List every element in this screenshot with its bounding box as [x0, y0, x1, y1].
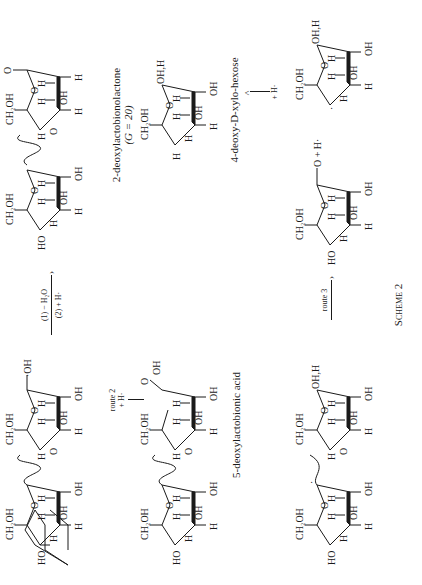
svg-text:O: O	[48, 448, 59, 455]
svg-text:O: O	[338, 448, 349, 455]
svg-text:H: H	[363, 83, 374, 90]
caption-lactone: 2-deoxylactobionolactone (G = 20)	[110, 45, 134, 205]
svg-text:O: O	[48, 128, 59, 135]
svg-text:H: H	[208, 123, 219, 130]
svg-text:OH: OH	[58, 506, 69, 520]
svg-text:H: H	[171, 513, 182, 520]
svg-text:OH: OH	[208, 82, 219, 96]
svg-text:H: H	[208, 523, 219, 530]
svg-text:CH₂OH: CH₂OH	[4, 93, 15, 125]
plus-h-radical: O + H·	[312, 139, 323, 167]
svg-text:H: H	[338, 95, 349, 102]
svg-text:H: H	[363, 428, 374, 435]
svg-text:H: H	[326, 195, 337, 202]
svg-text:H: H	[326, 513, 337, 520]
caption-acid: 5-deoxylactobionic acid	[230, 345, 242, 505]
svg-text:H: H	[73, 74, 84, 81]
svg-text:H: H	[326, 400, 337, 407]
svg-text:H: H	[73, 523, 84, 530]
svg-text:HO: HO	[36, 551, 47, 565]
route3-arrow: route 3 ›	[320, 280, 332, 320]
svg-text:H: H	[36, 453, 47, 460]
svg-text:H: H	[73, 208, 84, 215]
svg-text:H: H	[171, 418, 182, 425]
svg-text:OH: OH	[151, 361, 162, 375]
svg-text:CH₂OH: CH₂OH	[294, 508, 305, 540]
route2-sub-label: + H·	[117, 380, 126, 420]
caption-hexose: 4-deoxy-D-xylo-hexose	[228, 35, 240, 185]
svg-text:H: H	[171, 95, 182, 102]
svg-text:OH: OH	[363, 182, 374, 196]
svg-text:H: H	[363, 223, 374, 230]
svg-text:H: H	[326, 55, 337, 62]
svg-text:CH₂OH: CH₂OH	[139, 508, 150, 540]
svg-text:H: H	[171, 113, 182, 120]
scheme-label: Scheme 2	[392, 245, 404, 365]
svg-text:H: H	[326, 213, 337, 220]
svg-text:H: H	[338, 235, 349, 242]
svg-text:OH,H: OH,H	[155, 60, 166, 84]
svg-text:OH: OH	[363, 482, 374, 496]
svg-text:H: H	[36, 198, 47, 205]
g-value: (G = 20)	[122, 45, 134, 205]
svg-text:H: H	[73, 428, 84, 435]
row1-product-lactone-dimer: CH₂OH O HO H H OH H H OH	[0, 0, 120, 265]
svg-text:CH₂OH: CH₂OH	[294, 208, 305, 240]
arrow1-bottom-label: (2) + H·	[54, 275, 63, 335]
svg-text:H: H	[208, 428, 219, 435]
svg-text:OH,H: OH,H	[310, 365, 321, 389]
svg-text:H: H	[36, 495, 47, 502]
svg-text:H: H	[36, 80, 47, 87]
svg-text:H: H	[183, 135, 194, 142]
svg-text:H: H	[48, 220, 59, 227]
svg-text:·: ·	[326, 107, 337, 110]
svg-text:H: H	[48, 535, 59, 542]
ch2oh-label: CH₂OH	[4, 508, 15, 540]
svg-text:·OH: ·OH	[22, 359, 33, 377]
svg-text:H: H	[171, 153, 182, 160]
svg-text:H: H	[36, 180, 47, 187]
svg-text:CH₂OH: CH₂OH	[139, 413, 150, 445]
svg-text:O: O	[183, 448, 194, 455]
svg-text:O: O	[139, 378, 150, 385]
arrow1-top-label: (1) − H₂O	[40, 275, 49, 335]
svg-text:H: H	[338, 535, 349, 542]
h-add-arrow: ˄ + H·	[250, 77, 279, 107]
svg-text:H: H	[171, 453, 182, 460]
svg-text:O: O	[2, 67, 13, 74]
svg-text:H: H	[36, 418, 47, 425]
svg-text:H: H	[326, 453, 337, 460]
svg-text:OH: OH	[193, 106, 204, 120]
svg-text:HO: HO	[326, 251, 337, 265]
svg-text:CH₂OH: CH₂OH	[4, 193, 15, 225]
route3-label: route 3	[320, 280, 329, 320]
svg-text:HO: HO	[171, 551, 182, 565]
svg-text:CH₂OH: CH₂OH	[4, 413, 15, 445]
svg-text:OH: OH	[348, 411, 359, 425]
svg-text:H: H	[73, 108, 84, 115]
svg-text:OH: OH	[73, 482, 84, 496]
row2-hexose: CH₂OH O H H H OH H H OH OH,H	[135, 45, 235, 185]
row3-products: CH₂OH O HO H H OH H H OH O + H·	[290, 0, 400, 285]
svg-text:H: H	[36, 513, 47, 520]
svg-text:OH: OH	[348, 206, 359, 220]
svg-text:OH: OH	[208, 482, 219, 496]
svg-text:OH: OH	[193, 411, 204, 425]
svg-text:OH: OH	[58, 411, 69, 425]
svg-text:HO: HO	[326, 551, 337, 565]
row3-radical-dimer: CH₂OH O HO H H OH H H OH ·	[290, 325, 400, 585]
svg-text:H: H	[171, 495, 182, 502]
svg-text:OH: OH	[73, 167, 84, 181]
svg-text:H: H	[363, 523, 374, 530]
svg-text:CH₂OH: CH₂OH	[294, 68, 305, 100]
scheme-figure: CH₂OH O HO H H OH H H OH	[0, 0, 422, 585]
svg-text:H: H	[326, 73, 337, 80]
svg-text:HO: HO	[36, 236, 47, 250]
row2-acid: CH₂OH O HO H H OH H H OH	[135, 325, 245, 585]
svg-text:OH: OH	[348, 506, 359, 520]
svg-text:OH: OH	[348, 66, 359, 80]
svg-text:H: H	[36, 98, 47, 105]
svg-text:H: H	[183, 535, 194, 542]
svg-text:H: H	[171, 400, 182, 407]
reaction-arrow-1: (1) − H₂O › (2) + H·	[40, 275, 63, 335]
